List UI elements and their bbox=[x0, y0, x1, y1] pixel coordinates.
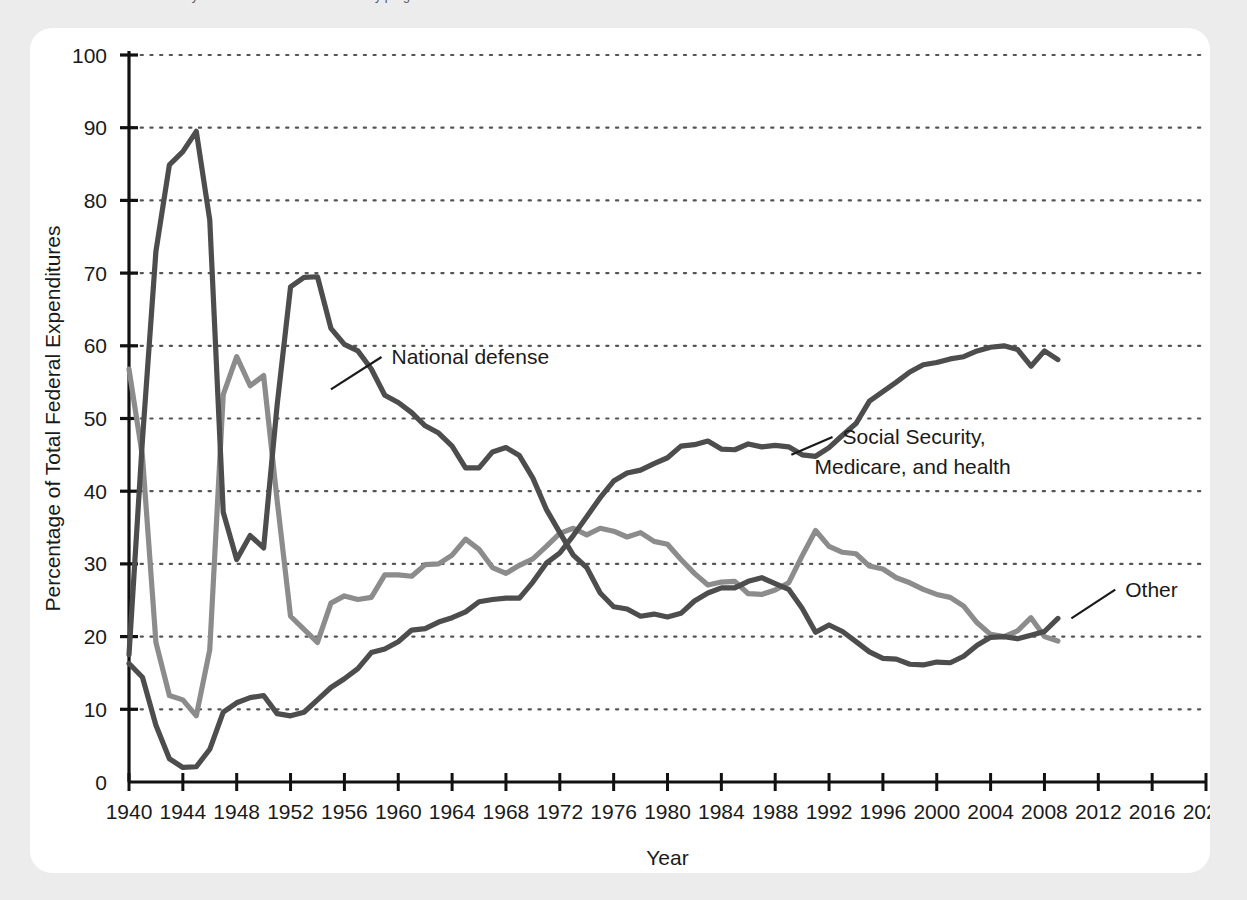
x-tick-label: 2000 bbox=[913, 800, 960, 823]
x-tick-label: 2004 bbox=[967, 800, 1014, 823]
x-tick-label: 1956 bbox=[321, 800, 368, 823]
y-tick-label: 40 bbox=[84, 480, 107, 503]
x-tick-label: 2020 bbox=[1183, 800, 1210, 823]
x-axis-title: Year bbox=[646, 846, 688, 869]
chart-card: 0102030405060708090100 19401944194819521… bbox=[30, 28, 1210, 873]
x-tick-label: 2012 bbox=[1075, 800, 1122, 823]
y-axis-title: Percentage of Total Federal Expenditures bbox=[41, 225, 64, 611]
series-group bbox=[129, 131, 1058, 767]
y-tick-label: 100 bbox=[72, 44, 107, 67]
y-tick-label: 70 bbox=[84, 262, 107, 285]
x-tick-label: 1968 bbox=[483, 800, 530, 823]
y-tick-label: 50 bbox=[84, 407, 107, 430]
y-tick-label: 80 bbox=[84, 189, 107, 212]
annotation-leader-line bbox=[1071, 590, 1115, 619]
x-tick-label: 1988 bbox=[752, 800, 799, 823]
y-tick-label: 10 bbox=[84, 698, 107, 721]
x-tick-label: 1960 bbox=[375, 800, 422, 823]
axes-group bbox=[129, 51, 1206, 782]
caption-text: mes the mid-1950s. Social Security and o… bbox=[2, 0, 438, 3]
x-tick-label: 1972 bbox=[536, 800, 583, 823]
x-tick-label: 1984 bbox=[698, 800, 745, 823]
series-label-other: Other bbox=[1125, 578, 1178, 601]
y-tick-label: 60 bbox=[84, 334, 107, 357]
x-tick-label: 1944 bbox=[159, 800, 206, 823]
x-tick-label: 1940 bbox=[106, 800, 153, 823]
x-tick-label: 1948 bbox=[213, 800, 260, 823]
y-tick-label: 0 bbox=[95, 771, 107, 794]
x-tick-label: 2008 bbox=[1021, 800, 1068, 823]
y-tick-label: 20 bbox=[84, 625, 107, 648]
x-tick-label: 1996 bbox=[860, 800, 907, 823]
series-line-other bbox=[129, 357, 1058, 716]
x-tick-label: 1980 bbox=[644, 800, 691, 823]
x-tick-label: 1992 bbox=[806, 800, 853, 823]
y-tick-label: 30 bbox=[84, 552, 107, 575]
series-label-social-security-line2: Medicare, and health bbox=[815, 455, 1011, 478]
chart-plot-area: 0102030405060708090100 19401944194819521… bbox=[30, 28, 1210, 873]
series-label-social-security: Social Security, bbox=[843, 425, 986, 448]
x-tick-label: 1952 bbox=[267, 800, 314, 823]
x-tick-label: 2016 bbox=[1129, 800, 1176, 823]
y-tick-label: 90 bbox=[84, 116, 107, 139]
clipped-caption-text: mes the mid-1950s. Social Security and o… bbox=[0, 0, 1247, 14]
line-chart: 0102030405060708090100 19401944194819521… bbox=[30, 28, 1210, 873]
series-label-national-defense: National defense bbox=[392, 345, 550, 368]
x-tick-label: 1964 bbox=[429, 800, 476, 823]
x-tick-label: 1976 bbox=[590, 800, 637, 823]
